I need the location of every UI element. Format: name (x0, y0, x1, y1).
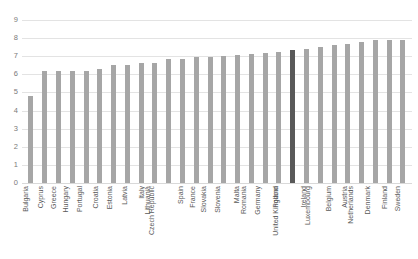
bar[interactable] (221, 56, 226, 183)
x-tick-label: Estonia (105, 186, 112, 209)
x-tick-label: Croatia (92, 186, 99, 209)
bar[interactable] (111, 65, 116, 183)
x-tick-label: Slovenia (214, 186, 221, 213)
y-tick-label: 3 (4, 125, 18, 133)
y-tick-label: 6 (4, 71, 18, 79)
x-tick-label: Belgium (325, 186, 332, 211)
bar-slot (341, 20, 355, 183)
x-label-slot: Croatia (93, 186, 107, 256)
bar-slot (396, 20, 410, 183)
bar-slot (189, 20, 203, 183)
bar[interactable] (139, 63, 144, 183)
bar[interactable] (194, 57, 199, 183)
bar[interactable] (276, 52, 281, 183)
bar[interactable] (387, 40, 392, 183)
bar-slot (79, 20, 93, 183)
x-label-slot: Sweden (396, 186, 410, 256)
x-tick-label: Romania (241, 186, 248, 214)
bar-slot (313, 20, 327, 183)
x-axis: BulgariaCyprusGreeceHungaryPortugalCroat… (22, 186, 412, 256)
x-tick-label: Czech Republic (148, 186, 155, 235)
bar-slot (93, 20, 107, 183)
bar-slot (38, 20, 52, 183)
bar-slot (52, 20, 66, 183)
bar[interactable] (180, 59, 185, 183)
x-tick-label: United Kingdom (271, 186, 278, 236)
bar[interactable] (42, 71, 47, 183)
bar[interactable] (84, 71, 89, 183)
x-tick-label: Sweden (394, 186, 401, 211)
bar-slot (245, 20, 259, 183)
y-tick-label: 1 (4, 161, 18, 169)
bars-layer (22, 20, 412, 183)
x-label-slot: Portugal (79, 186, 93, 256)
bar-slot (231, 20, 245, 183)
y-tick-label: 7 (4, 52, 18, 60)
bar[interactable] (332, 45, 337, 183)
y-tick-label: 2 (4, 143, 18, 151)
bar[interactable] (208, 57, 213, 183)
bar-slot (286, 20, 300, 183)
bar[interactable] (28, 96, 33, 183)
bar-slot (148, 20, 162, 183)
bar[interactable] (290, 50, 295, 183)
x-tick-label: Netherlands (346, 186, 353, 224)
bar-slot (24, 20, 38, 183)
bar[interactable] (345, 44, 350, 183)
bar[interactable] (70, 71, 75, 183)
x-tick-label: Greece (50, 186, 57, 209)
x-tick-label: Luxembourg (304, 186, 311, 225)
bar-slot (217, 20, 231, 183)
bar-chart: 0123456789 BulgariaCyprusGreeceHungaryPo… (0, 0, 418, 259)
bar[interactable] (359, 42, 364, 183)
x-tick-label: France (189, 186, 196, 208)
y-tick-label: 5 (4, 89, 18, 97)
bar[interactable] (400, 40, 405, 183)
bar[interactable] (263, 53, 268, 183)
x-label-slot: Slovenia (217, 186, 231, 256)
x-label-slot: Czech Republic (162, 186, 176, 256)
bar-slot (65, 20, 79, 183)
bar[interactable] (304, 49, 309, 183)
bar-slot (176, 20, 190, 183)
bar-slot (382, 20, 396, 183)
bar-slot (258, 20, 272, 183)
x-tick-label: Malta (233, 186, 240, 203)
bar-slot (203, 20, 217, 183)
bar[interactable] (125, 65, 130, 183)
x-tick-label: Cyprus (37, 186, 44, 208)
bar-slot (355, 20, 369, 183)
gridline (22, 183, 412, 184)
y-tick-label: 9 (4, 16, 18, 24)
bar[interactable] (152, 63, 157, 183)
bar[interactable] (235, 55, 240, 183)
bar-slot (300, 20, 314, 183)
x-label-slot: Latvia (120, 186, 134, 256)
y-tick-label: 0 (4, 179, 18, 187)
bar[interactable] (249, 54, 254, 183)
bar[interactable] (166, 59, 171, 183)
x-tick-label: Hungary (63, 186, 70, 212)
x-tick-label: Bulgaria (22, 186, 29, 212)
bar-slot (107, 20, 121, 183)
x-tick-label: Slovakia (200, 186, 207, 212)
bar-slot (120, 20, 134, 183)
bar[interactable] (373, 40, 378, 183)
x-tick-label: Finland (381, 186, 388, 209)
bar[interactable] (318, 47, 323, 183)
x-tick-label: Latvia (122, 186, 129, 205)
bar[interactable] (97, 69, 102, 183)
y-tick-label: 8 (4, 34, 18, 42)
x-tick-label: Denmark (365, 186, 372, 214)
bar-slot (134, 20, 148, 183)
y-axis: 0123456789 (0, 20, 18, 183)
x-label-slot: Belgium (327, 186, 341, 256)
x-label-slot: Spain (176, 186, 190, 256)
bar[interactable] (56, 71, 61, 183)
x-label-slot: Estonia (107, 186, 121, 256)
x-tick-label: Spain (177, 186, 184, 204)
x-label-slot: Bulgaria (24, 186, 38, 256)
x-tick-label: Portugal (76, 186, 83, 212)
x-label-slot: Germany (258, 186, 272, 256)
bar-slot (162, 20, 176, 183)
